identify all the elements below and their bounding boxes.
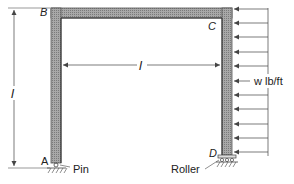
joint-a-label: A (41, 155, 49, 167)
joint-b-label: B (40, 6, 47, 18)
distributed-load: w lb/ft (234, 8, 294, 156)
pin-support: Pin (47, 163, 89, 175)
load-label: w lb/ft (253, 75, 283, 87)
frame-diagram: l l w lb/ft B C A (0, 0, 294, 184)
joint-d-label: D (209, 147, 217, 159)
roller-label: Roller (171, 163, 200, 175)
height-dimension: l (8, 8, 50, 168)
pin-label: Pin (73, 163, 89, 175)
roller-support: Roller (171, 155, 238, 175)
frame-members (51, 8, 232, 163)
column-cd (222, 8, 232, 155)
column-ab (51, 8, 61, 163)
beam-bc (51, 8, 232, 18)
joint-c-label: C (208, 20, 216, 32)
span-dimension: l (63, 57, 220, 73)
